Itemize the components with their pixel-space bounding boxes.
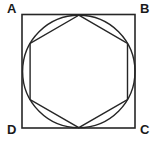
inscribed-circle (23, 15, 135, 127)
vertex-label-b: B (140, 2, 149, 15)
vertex-label-a: A (7, 2, 16, 15)
geometry-figure: A B C D (0, 0, 157, 143)
figure-canvas (0, 0, 157, 143)
vertex-label-c: C (140, 123, 149, 136)
vertex-label-d: D (7, 123, 16, 136)
inscribed-hexagon (30, 15, 127, 127)
